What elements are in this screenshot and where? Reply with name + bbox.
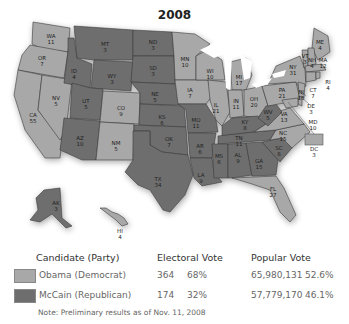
electoral-votes: 174 [157, 290, 174, 300]
svg-text:MN10: MN10 [181, 56, 190, 68]
state-md [282, 98, 298, 108]
svg-text:CA55: CA55 [29, 112, 37, 124]
svg-text:MA12: MA12 [319, 57, 328, 69]
svg-text:CT7: CT7 [309, 87, 317, 99]
state-hi [100, 208, 128, 226]
popular-votes: 57,779,170 [251, 290, 303, 300]
header-popular: Popular Vote [251, 252, 311, 263]
popular-pct: 46.1% [305, 290, 334, 300]
footnote: Note: Preliminary results as of Nov. 11,… [38, 308, 206, 317]
svg-text:GA15: GA15 [255, 158, 263, 170]
legend-row-mccain: McCain (Republican) 174 32% 57,779,170 4… [14, 288, 349, 304]
svg-text:HI4: HI4 [117, 228, 123, 240]
svg-text:NJ15: NJ15 [298, 89, 305, 101]
svg-text:NC15: NC15 [279, 130, 287, 142]
svg-text:FL27: FL27 [270, 186, 278, 198]
svg-text:TX34: TX34 [153, 176, 162, 188]
header-candidate: Candidate (Party) [36, 252, 119, 263]
state-ia [175, 80, 212, 104]
electoral-votes: 364 [157, 270, 174, 280]
svg-text:MI17: MI17 [236, 74, 243, 86]
candidate-name: Obama (Democrat) [39, 270, 126, 280]
state-fl [232, 176, 296, 222]
swatch-republican [14, 289, 36, 303]
svg-text:NY31: NY31 [289, 64, 297, 76]
header-electoral: Electoral Vote [157, 252, 223, 263]
svg-text:DE3: DE3 [307, 103, 315, 115]
us-electoral-map: WA11 OR7 CA55 NV5 ID4 MT3 WY3 UT5 AZ10 C… [0, 0, 349, 250]
svg-text:WA11: WA11 [47, 33, 56, 45]
svg-text:MD10: MD10 [309, 119, 318, 131]
swatch-democrat [14, 269, 36, 283]
legend-row-obama: Obama (Democrat) 364 68% 65,980,131 52.6… [14, 268, 349, 284]
state-ct [306, 72, 316, 82]
svg-text:AZ10: AZ10 [76, 135, 84, 147]
svg-text:DC3: DC3 [310, 146, 318, 158]
electoral-pct: 68% [187, 270, 207, 280]
dc-box [305, 134, 323, 145]
svg-text:PA21: PA21 [279, 87, 286, 99]
popular-pct: 52.6% [305, 270, 334, 280]
svg-text:OH20: OH20 [250, 96, 258, 108]
state-ak [30, 188, 72, 228]
electoral-pct: 32% [187, 290, 207, 300]
popular-votes: 65,980,131 [251, 270, 303, 280]
svg-text:TN11: TN11 [234, 135, 242, 147]
state-ri [316, 72, 320, 79]
svg-text:WI10: WI10 [206, 68, 214, 80]
candidate-name: McCain (Republican) [39, 290, 131, 300]
svg-text:VA13: VA13 [280, 111, 288, 123]
svg-text:RI4: RI4 [325, 79, 331, 91]
svg-text:IN11: IN11 [233, 98, 240, 110]
